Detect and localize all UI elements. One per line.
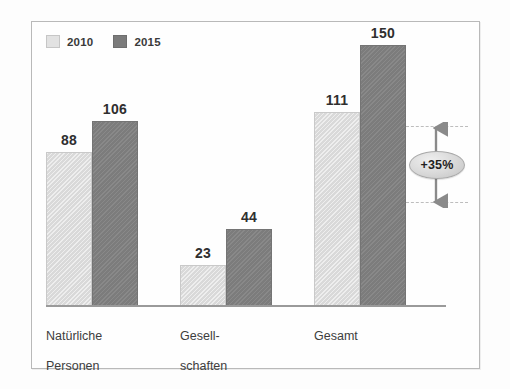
category-label-gesellschaften: Gesell- schaften	[180, 314, 227, 389]
chart-canvas: 2010 2015	[0, 0, 510, 389]
bar-wrap-g1-2010: 88	[46, 152, 92, 305]
growth-badge-label: +35%	[420, 158, 453, 172]
bar-g3-2010[interactable]	[314, 112, 360, 305]
bar-wrap-g2-2010: 23	[180, 265, 226, 305]
category-label-line2: Personen	[46, 359, 102, 374]
bar-wrap-g3-2015: 150	[360, 45, 406, 305]
bar-value-g2-2015: 44	[241, 209, 257, 225]
bar-value-g3-2015: 150	[371, 25, 395, 41]
bar-group-natuerliche-personen: 88 106	[46, 121, 138, 305]
category-label-gesamt: Gesamt	[314, 314, 358, 374]
bar-g3-2015[interactable]	[360, 45, 406, 305]
bar-value-g3-2010: 111	[326, 92, 349, 108]
category-label-line2: schaften	[180, 359, 227, 374]
category-label-line1: Gesamt	[314, 329, 358, 344]
bar-g1-2010[interactable]	[46, 152, 92, 305]
growth-badge: +35%	[409, 151, 465, 179]
bar-wrap-g3-2010: 111	[314, 112, 360, 305]
figure-frame: 2010 2015	[31, 21, 480, 369]
category-label-natuerliche-personen: Natürliche Personen	[46, 314, 102, 389]
bar-value-g1-2015: 106	[103, 101, 127, 117]
bar-g1-2015[interactable]	[92, 121, 138, 305]
bar-wrap-g1-2015: 106	[92, 121, 138, 305]
x-axis-baseline	[46, 305, 446, 307]
plot-area: +35% 88 106 23 44	[32, 22, 481, 370]
bar-g2-2010[interactable]	[180, 265, 226, 305]
bar-g2-2015[interactable]	[226, 229, 272, 305]
bar-group-gesellschaften: 23 44	[180, 229, 272, 305]
bar-value-g2-2010: 23	[195, 245, 211, 261]
category-label-line1: Gesell-	[180, 329, 227, 344]
bar-group-gesamt: 111 150	[314, 45, 406, 305]
category-label-line1: Natürliche	[46, 329, 102, 344]
bar-wrap-g2-2015: 44	[226, 229, 272, 305]
bar-value-g1-2010: 88	[61, 132, 77, 148]
